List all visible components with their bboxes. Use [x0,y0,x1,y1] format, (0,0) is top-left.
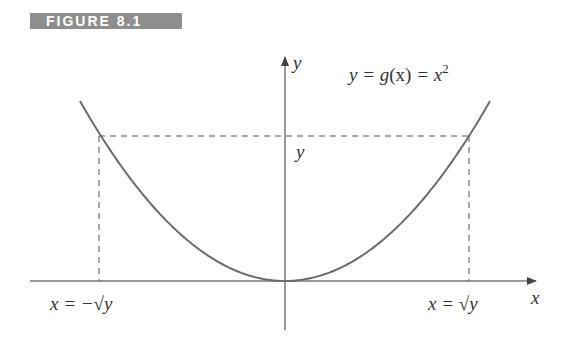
y-axis-label: y [293,52,301,74]
curve-equation: y = g(x) = x2 [349,64,449,86]
x-axis-label: x [531,287,539,309]
equation-exponent: 2 [442,61,449,76]
equation-rhs: = x [411,64,442,85]
equation-paren: (x) [389,64,411,85]
equation-lhs: y = g [349,64,389,85]
y-level-label: y [296,141,304,163]
right-root-label: x = √y [428,293,478,315]
left-root-label: x = −√y [50,293,112,315]
